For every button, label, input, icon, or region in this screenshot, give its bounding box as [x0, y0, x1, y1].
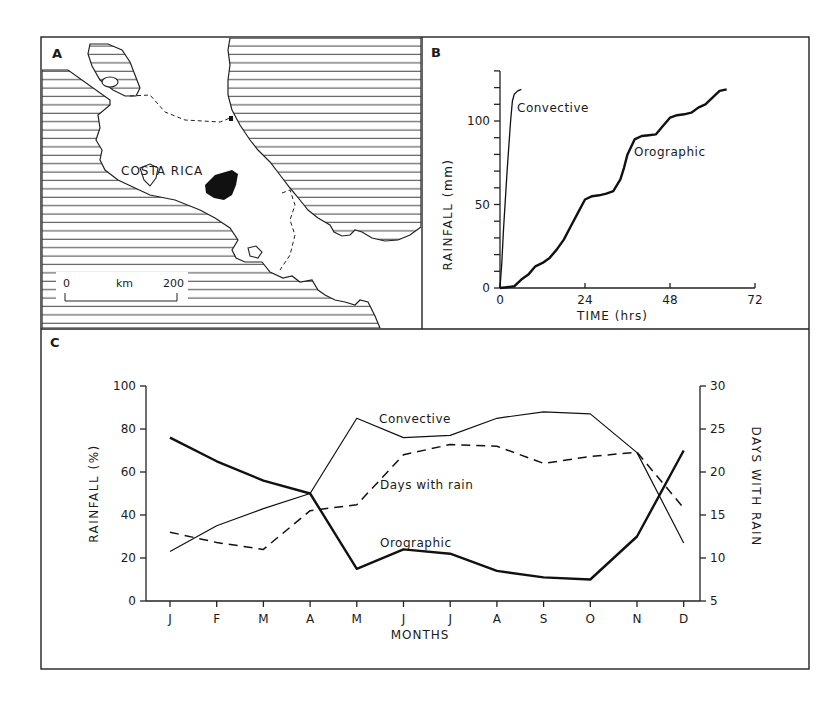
month-label: J [167, 612, 172, 626]
right-tick-label: 25 [710, 422, 725, 436]
x-tick-label: 0 [496, 293, 504, 307]
annotation-days-with-rain: Days with rain [380, 478, 473, 492]
series-days-with-rain-line [170, 445, 684, 550]
figure-frame [41, 37, 809, 669]
y-tick-label: 0 [482, 281, 490, 295]
month-label: A [493, 612, 502, 626]
panel-b-chart: 0501000244872TIME (hrs)RAINFALL (mm)Conv… [441, 71, 763, 323]
annotation-convective: Convective [379, 412, 451, 426]
study-area-marker [205, 170, 238, 200]
figure: A COSTA RICA 0 km 200 B 0501000244872TIM… [0, 0, 835, 701]
right-tick-label: 5 [710, 594, 718, 608]
month-label: J [401, 612, 406, 626]
month-label: M [352, 612, 362, 626]
month-label: O [586, 612, 595, 626]
left-tick-label: 40 [121, 508, 136, 522]
map-country-label: COSTA RICA [121, 164, 203, 178]
scale-unit: km [116, 277, 133, 290]
scale-bar: 0 km 200 [56, 272, 188, 304]
right-tick-label: 20 [710, 465, 725, 479]
panel-a-label: A [52, 46, 62, 61]
y-tick-label: 50 [475, 198, 490, 212]
panel-c-label: C [50, 335, 60, 350]
left-tick-label: 80 [121, 422, 136, 436]
month-label: D [679, 612, 688, 626]
left-axis-label: RAINFALL (%) [87, 444, 101, 543]
annotation-orographic: Orographic [634, 145, 706, 159]
scale-end: 200 [163, 277, 184, 290]
annotation-orographic: Orographic [380, 536, 452, 550]
panel-c-chart: 02040608010051015202530JFMAMJJASONDMONTH… [87, 379, 763, 642]
small-marker [229, 116, 233, 121]
x-tick-label: 48 [662, 293, 677, 307]
y-axis-label: RAINFALL (mm) [441, 158, 455, 270]
panel-b-label: B [431, 45, 441, 60]
right-tick-label: 15 [710, 508, 725, 522]
x-axis-label: TIME (hrs) [576, 309, 648, 323]
y-tick-label: 100 [467, 114, 490, 128]
right-tick-label: 10 [710, 551, 725, 565]
month-label: F [213, 612, 220, 626]
series-convective-line [500, 89, 521, 288]
month-label: N [633, 612, 642, 626]
left-tick-label: 20 [121, 551, 136, 565]
month-label: M [258, 612, 268, 626]
annotation-convective: Convective [517, 101, 589, 115]
month-label: A [306, 612, 315, 626]
series-orographic-line [170, 438, 684, 580]
x-tick-label: 24 [577, 293, 592, 307]
right-axis-label: DAYS WITH RAIN [749, 426, 763, 546]
panel-a-map: A COSTA RICA 0 km 200 [42, 38, 421, 328]
left-tick-label: 60 [121, 465, 136, 479]
left-tick-label: 100 [113, 379, 136, 393]
scale-start: 0 [63, 277, 70, 290]
right-tick-label: 30 [710, 379, 725, 393]
month-label: J [447, 612, 452, 626]
left-tick-label: 0 [128, 594, 136, 608]
month-label: S [540, 612, 548, 626]
x-tick-label: 72 [747, 293, 762, 307]
series-orographic-line [500, 89, 727, 288]
x-axis-label: MONTHS [391, 628, 450, 642]
